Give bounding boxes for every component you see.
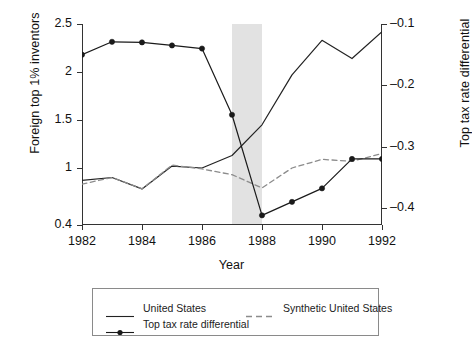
y-axis-right-title: Top tax rate differential bbox=[458, 0, 472, 178]
data-point-marker bbox=[379, 156, 382, 161]
x-tick-1992: 1992 bbox=[352, 234, 412, 248]
legend-key-solid-line bbox=[105, 307, 135, 316]
y-tick-left-2: 2 bbox=[32, 64, 72, 78]
x-tick-mark bbox=[82, 225, 83, 230]
data-point-marker bbox=[289, 199, 294, 204]
x-tick-1990: 1990 bbox=[292, 234, 352, 248]
y-tick-left-1: 1 bbox=[32, 160, 72, 174]
y-tick-mark-right bbox=[382, 147, 387, 148]
y-tick-left-2.5: 2.5 bbox=[32, 16, 72, 30]
data-point-marker bbox=[82, 52, 85, 57]
x-tick-1982: 1982 bbox=[52, 234, 112, 248]
x-tick-1986: 1986 bbox=[172, 234, 232, 248]
y-tick-left-0.4: 0.4 bbox=[32, 217, 72, 231]
x-tick-mark bbox=[382, 225, 383, 230]
data-point-marker bbox=[109, 39, 114, 44]
x-tick-1984: 1984 bbox=[112, 234, 172, 248]
x-tick-1988: 1988 bbox=[232, 234, 292, 248]
legend-label-dashed-line: Synthetic United States bbox=[283, 302, 392, 314]
y-tick-mark-right bbox=[382, 24, 387, 25]
data-point-marker bbox=[319, 186, 324, 191]
data-point-marker bbox=[139, 40, 144, 45]
y-tick-right--0.1: –0.1 bbox=[390, 16, 434, 30]
x-tick-mark bbox=[142, 225, 143, 230]
y-tick-right--0.4: –0.4 bbox=[390, 200, 434, 214]
x-tick-mark bbox=[322, 225, 323, 230]
y-tick-right--0.2: –0.2 bbox=[390, 77, 434, 91]
x-tick-mark bbox=[262, 225, 263, 230]
shaded-region bbox=[232, 24, 262, 225]
chart-legend: United StatesSynthetic United StatesTop … bbox=[92, 288, 379, 336]
data-point-marker bbox=[349, 156, 354, 161]
legend-key-dashed-line bbox=[245, 307, 275, 316]
legend-label-marker-line: Top tax rate differential bbox=[143, 318, 249, 330]
data-point-marker bbox=[169, 43, 174, 48]
data-point-marker bbox=[229, 112, 234, 117]
y-tick-left-1.5: 1.5 bbox=[32, 112, 72, 126]
data-point-marker bbox=[259, 213, 264, 218]
plot-area bbox=[82, 24, 382, 225]
y-tick-right--0.3: –0.3 bbox=[390, 139, 434, 153]
legend-key-marker-line bbox=[105, 323, 135, 332]
y-tick-mark-right bbox=[382, 85, 387, 86]
legend-label-solid-line: United States bbox=[143, 302, 206, 314]
plot-svg bbox=[82, 24, 382, 225]
y-tick-mark-right bbox=[382, 208, 387, 209]
data-point-marker bbox=[199, 46, 204, 51]
x-axis-title: Year bbox=[0, 258, 463, 272]
x-tick-mark bbox=[202, 225, 203, 230]
